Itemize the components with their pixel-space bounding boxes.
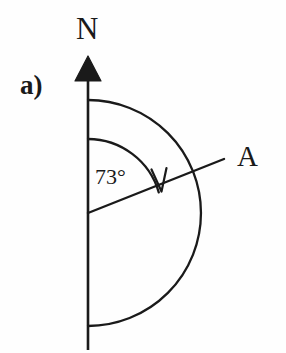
figure-canvas: N a) 73° A xyxy=(0,0,286,353)
north-label: N xyxy=(76,13,98,44)
outer-semicircle-arc xyxy=(88,100,201,326)
angle-value-label: 73° xyxy=(95,166,126,188)
north-arrowhead-icon xyxy=(75,56,101,81)
target-direction-label: A xyxy=(237,142,258,171)
part-label: a) xyxy=(20,72,43,99)
bearing-diagram xyxy=(0,0,286,353)
